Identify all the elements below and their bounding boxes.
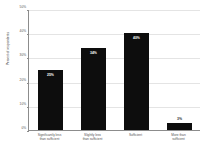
bar[interactable]	[167, 123, 191, 130]
bar[interactable]	[81, 48, 105, 130]
y-axis-tick-label: 50%	[12, 6, 26, 9]
y-axis-title: Percent of respondents	[7, 21, 10, 77]
x-axis-tick-label: Significantly less than sufficient	[28, 133, 71, 141]
bar[interactable]	[38, 70, 62, 131]
bar-group[interactable]: 25%	[38, 10, 62, 130]
y-axis-tickmark	[27, 131, 30, 132]
bar-value-label: 25%	[38, 74, 62, 77]
plot-area: 25%34%40%3%	[28, 10, 200, 131]
bar-value-label: 40%	[124, 37, 148, 40]
x-axis-tick-label: Sufficient	[114, 133, 157, 137]
x-axis-tick-label: Slightly less than sufficient	[71, 133, 114, 141]
y-axis-tick-label: 10%	[12, 103, 26, 106]
bar[interactable]	[124, 33, 148, 130]
x-axis-tick-labels: Significantly less than sufficientSlight…	[28, 133, 200, 151]
y-axis-tick-labels: 0%10%20%30%40%50%	[12, 8, 26, 131]
bar-group[interactable]: 34%	[81, 10, 105, 130]
bar-value-label: 34%	[81, 52, 105, 55]
x-axis-tick-label: More than sufficient	[157, 133, 200, 141]
y-axis-tick-label: 30%	[12, 55, 26, 58]
bar-group[interactable]: 40%	[124, 10, 148, 130]
y-axis-tick-label: 40%	[12, 31, 26, 34]
bar-group[interactable]: 3%	[167, 10, 191, 130]
bar-chart: Percent of respondents 0%10%20%30%40%50%…	[0, 0, 209, 151]
bar-value-label: 3%	[167, 118, 191, 121]
y-axis-tick-label: 20%	[12, 79, 26, 82]
y-axis-tick-label: 0%	[12, 127, 26, 130]
bars-layer: 25%34%40%3%	[29, 10, 200, 130]
